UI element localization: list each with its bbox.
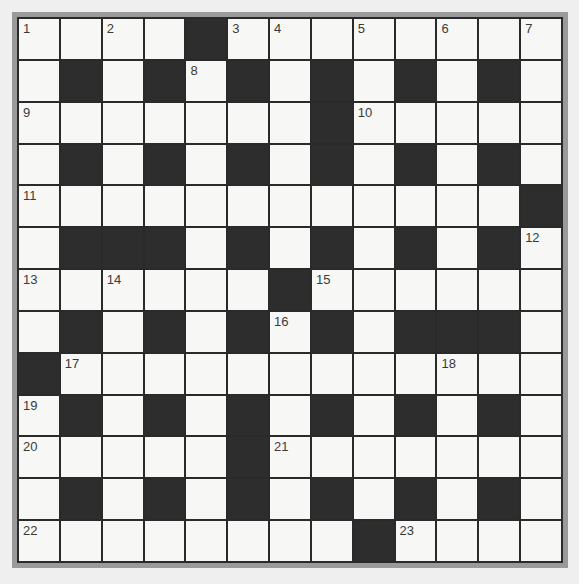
crossword-cell[interactable]: 2 xyxy=(103,19,143,59)
crossword-cell[interactable]: 5 xyxy=(354,19,394,59)
crossword-cell[interactable] xyxy=(521,521,561,561)
crossword-cell[interactable] xyxy=(437,145,477,185)
crossword-cell[interactable] xyxy=(521,145,561,185)
crossword-cell[interactable] xyxy=(479,437,519,477)
crossword-cell[interactable] xyxy=(103,354,143,394)
crossword-cell[interactable] xyxy=(61,103,101,143)
crossword-cell[interactable] xyxy=(103,186,143,226)
crossword-cell[interactable] xyxy=(437,103,477,143)
crossword-cell[interactable] xyxy=(479,19,519,59)
crossword-cell[interactable]: 4 xyxy=(270,19,310,59)
crossword-cell[interactable] xyxy=(354,145,394,185)
crossword-cell[interactable] xyxy=(270,396,310,436)
crossword-cell[interactable] xyxy=(521,479,561,519)
crossword-cell[interactable] xyxy=(521,437,561,477)
crossword-cell[interactable]: 15 xyxy=(312,270,352,310)
crossword-cell[interactable] xyxy=(354,396,394,436)
crossword-cell[interactable] xyxy=(437,521,477,561)
crossword-cell[interactable] xyxy=(186,186,226,226)
crossword-cell[interactable] xyxy=(479,521,519,561)
crossword-cell[interactable]: 12 xyxy=(521,228,561,268)
crossword-cell[interactable]: 7 xyxy=(521,19,561,59)
crossword-cell[interactable] xyxy=(19,61,59,101)
crossword-cell[interactable] xyxy=(354,437,394,477)
crossword-cell[interactable] xyxy=(521,396,561,436)
crossword-cell[interactable] xyxy=(61,437,101,477)
crossword-cell[interactable]: 18 xyxy=(437,354,477,394)
crossword-cell[interactable] xyxy=(270,145,310,185)
crossword-cell[interactable] xyxy=(270,228,310,268)
crossword-cell[interactable] xyxy=(354,228,394,268)
crossword-cell[interactable]: 10 xyxy=(354,103,394,143)
crossword-cell[interactable]: 17 xyxy=(61,354,101,394)
crossword-cell[interactable] xyxy=(312,186,352,226)
crossword-cell[interactable] xyxy=(521,270,561,310)
crossword-cell[interactable] xyxy=(61,521,101,561)
crossword-cell[interactable] xyxy=(186,103,226,143)
crossword-cell[interactable] xyxy=(437,270,477,310)
crossword-cell[interactable] xyxy=(479,186,519,226)
crossword-cell[interactable] xyxy=(354,479,394,519)
crossword-cell[interactable] xyxy=(19,479,59,519)
crossword-cell[interactable] xyxy=(396,103,436,143)
crossword-cell[interactable] xyxy=(145,521,185,561)
crossword-cell[interactable] xyxy=(437,61,477,101)
crossword-cell[interactable] xyxy=(186,145,226,185)
crossword-cell[interactable] xyxy=(186,396,226,436)
crossword-cell[interactable] xyxy=(103,479,143,519)
crossword-cell[interactable] xyxy=(437,437,477,477)
crossword-cell[interactable] xyxy=(354,186,394,226)
crossword-cell[interactable] xyxy=(312,19,352,59)
crossword-cell[interactable] xyxy=(145,103,185,143)
crossword-cell[interactable] xyxy=(437,186,477,226)
crossword-cell[interactable] xyxy=(103,437,143,477)
crossword-cell[interactable] xyxy=(103,61,143,101)
crossword-cell[interactable] xyxy=(228,186,268,226)
crossword-cell[interactable] xyxy=(103,145,143,185)
crossword-cell[interactable] xyxy=(19,228,59,268)
crossword-cell[interactable]: 11 xyxy=(19,186,59,226)
crossword-cell[interactable] xyxy=(479,103,519,143)
crossword-cell[interactable] xyxy=(270,479,310,519)
crossword-cell[interactable] xyxy=(186,270,226,310)
crossword-cell[interactable] xyxy=(61,186,101,226)
crossword-cell[interactable] xyxy=(145,270,185,310)
crossword-cell[interactable] xyxy=(61,270,101,310)
crossword-cell[interactable] xyxy=(186,521,226,561)
crossword-cell[interactable] xyxy=(437,396,477,436)
crossword-cell[interactable] xyxy=(479,354,519,394)
crossword-cell[interactable] xyxy=(270,103,310,143)
crossword-cell[interactable] xyxy=(312,437,352,477)
crossword-cell[interactable] xyxy=(186,312,226,352)
crossword-cell[interactable] xyxy=(145,186,185,226)
crossword-cell[interactable]: 1 xyxy=(19,19,59,59)
crossword-cell[interactable]: 8 xyxy=(186,61,226,101)
crossword-cell[interactable] xyxy=(270,521,310,561)
crossword-cell[interactable] xyxy=(396,19,436,59)
crossword-cell[interactable] xyxy=(521,103,561,143)
crossword-cell[interactable]: 23 xyxy=(396,521,436,561)
crossword-cell[interactable] xyxy=(354,354,394,394)
crossword-cell[interactable] xyxy=(61,19,101,59)
crossword-cell[interactable] xyxy=(103,521,143,561)
crossword-cell[interactable] xyxy=(396,437,436,477)
crossword-cell[interactable] xyxy=(521,354,561,394)
crossword-cell[interactable] xyxy=(270,61,310,101)
crossword-cell[interactable] xyxy=(103,396,143,436)
crossword-cell[interactable]: 21 xyxy=(270,437,310,477)
crossword-cell[interactable]: 14 xyxy=(103,270,143,310)
crossword-cell[interactable] xyxy=(396,186,436,226)
crossword-cell[interactable] xyxy=(186,437,226,477)
crossword-cell[interactable] xyxy=(228,521,268,561)
crossword-cell[interactable] xyxy=(145,437,185,477)
crossword-cell[interactable]: 3 xyxy=(228,19,268,59)
crossword-cell[interactable]: 13 xyxy=(19,270,59,310)
crossword-cell[interactable]: 20 xyxy=(19,437,59,477)
crossword-cell[interactable] xyxy=(354,270,394,310)
crossword-cell[interactable] xyxy=(103,103,143,143)
crossword-cell[interactable]: 6 xyxy=(437,19,477,59)
crossword-cell[interactable]: 9 xyxy=(19,103,59,143)
crossword-cell[interactable] xyxy=(312,354,352,394)
crossword-cell[interactable]: 22 xyxy=(19,521,59,561)
crossword-cell[interactable] xyxy=(19,145,59,185)
